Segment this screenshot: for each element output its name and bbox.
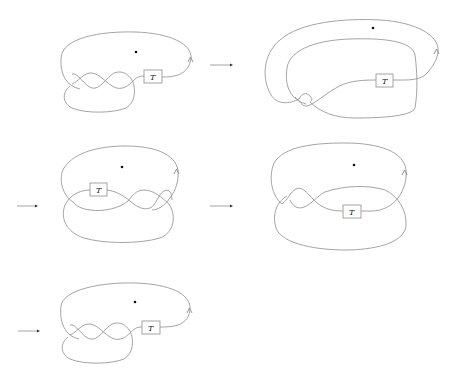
panel-3: T [61,146,179,243]
strand-twist [299,94,312,102]
basepoint-dot [353,164,356,167]
panel-1: T [61,32,193,112]
basepoint-dot [372,27,375,30]
tangle-label: T [96,186,102,195]
transition-arrow-1 [210,64,233,67]
arrowhead-icon [230,64,233,67]
strand-twist-lower [62,323,132,363]
arrowhead-icon [37,330,40,333]
tangle-label: T [349,208,355,217]
diagram-canvas: T T T [0,0,455,379]
strand-T-to-twist [282,188,343,211]
basepoint-dot [121,166,124,169]
strand-lower-loop [63,190,173,243]
panel-2: T [265,20,439,118]
arrowhead-icon [35,205,38,208]
transition-arrow-2 [17,205,38,208]
strand-outer-loop [265,20,438,103]
panel-5: T [61,283,192,363]
transition-arrow-4 [18,330,40,333]
panel-4: T [271,143,407,250]
strand-upper-loop [61,32,191,89]
tangle-label: T [150,73,156,82]
basepoint-dot [134,301,137,304]
strand-T-to-twist [295,80,376,106]
strand-twist-lower [64,72,134,112]
tangle-label: T [148,324,154,333]
transition-arrow-3 [210,205,233,208]
tangle-label: T [382,77,388,86]
strand-upper-loop [271,143,406,211]
basepoint-dot [135,51,138,54]
arrowhead-icon [230,205,233,208]
strand-upper-loop [61,283,190,339]
strand-lower-loop [274,186,406,250]
strand-upper-loop [61,146,178,210]
